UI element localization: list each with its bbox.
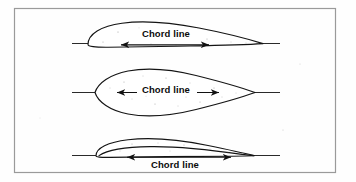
- airfoil-diagram-canvas: Chord line: [0, 0, 356, 182]
- airfoil-middle-chord-label: Chord line: [142, 84, 190, 95]
- airfoil-figure: Chord line: [0, 0, 356, 182]
- airfoil-top-chord-label: Chord line: [142, 28, 190, 39]
- airfoil-bottom-chord-label: Chord line: [151, 159, 199, 170]
